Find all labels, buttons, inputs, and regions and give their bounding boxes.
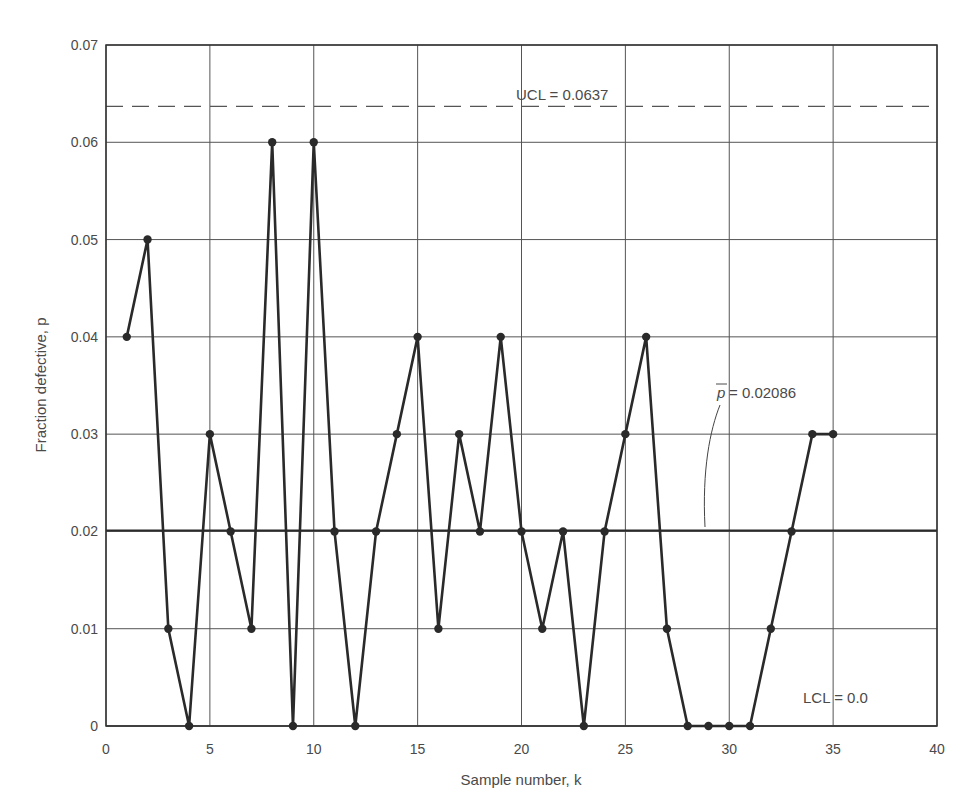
x-tick-label: 5 (206, 741, 214, 757)
data-point (642, 333, 650, 341)
x-tick-label: 0 (102, 741, 110, 757)
data-point (289, 722, 297, 730)
data-point (268, 138, 276, 146)
data-point (517, 527, 525, 535)
data-point (455, 430, 463, 438)
y-axis-label: Fraction defective, p (32, 317, 49, 452)
data-point (600, 527, 608, 535)
x-tick-label: 25 (618, 741, 634, 757)
data-point (829, 430, 837, 438)
y-tick-label: 0.01 (71, 621, 98, 637)
data-point (372, 527, 380, 535)
y-tick-label: 0 (90, 718, 98, 734)
data-point (143, 235, 151, 243)
pbar-annotation: p = 0.02086 (704, 384, 796, 527)
pbar-symbol: p (716, 384, 725, 401)
ucl-label: UCL = 0.0637 (516, 86, 608, 103)
lcl-label: LCL = 0.0 (803, 689, 868, 706)
x-tick-label: 40 (929, 741, 945, 757)
y-tick-label: 0.06 (71, 134, 98, 150)
y-tick-label: 0.03 (71, 426, 98, 442)
pbar-leader-line (704, 405, 720, 527)
data-point (434, 625, 442, 633)
data-point (206, 430, 214, 438)
data-point (351, 722, 359, 730)
data-point (226, 527, 234, 535)
data-point (725, 722, 733, 730)
x-tick-label: 35 (825, 741, 841, 757)
data-point (767, 625, 775, 633)
data-point (538, 625, 546, 633)
data-point (413, 333, 421, 341)
data-point (310, 138, 318, 146)
data-point (164, 625, 172, 633)
x-axis-ticks: 0510152025303540 (102, 741, 945, 757)
data-point (746, 722, 754, 730)
x-tick-label: 10 (306, 741, 322, 757)
data-point (559, 527, 567, 535)
data-point (330, 527, 338, 535)
data-point (684, 722, 692, 730)
data-point (393, 430, 401, 438)
data-point (808, 430, 816, 438)
y-tick-label: 0.07 (71, 37, 98, 53)
pbar-value: = 0.02086 (729, 384, 796, 401)
data-point (621, 430, 629, 438)
data-point (476, 527, 484, 535)
data-point (497, 333, 505, 341)
data-point (123, 333, 131, 341)
grid-lines (106, 45, 937, 726)
data-point (185, 722, 193, 730)
x-axis-label: Sample number, k (461, 771, 582, 788)
data-point (580, 722, 588, 730)
x-tick-label: 20 (514, 741, 530, 757)
control-chart: 0510152025303540 00.010.020.030.040.050.… (0, 0, 973, 803)
data-point (247, 625, 255, 633)
data-point (704, 722, 712, 730)
data-point (787, 527, 795, 535)
y-tick-label: 0.05 (71, 232, 98, 248)
x-tick-label: 30 (721, 741, 737, 757)
y-tick-label: 0.02 (71, 523, 98, 539)
y-tick-label: 0.04 (71, 329, 98, 345)
y-axis-ticks: 00.010.020.030.040.050.060.07 (71, 37, 98, 734)
x-tick-label: 15 (410, 741, 426, 757)
data-point (663, 625, 671, 633)
